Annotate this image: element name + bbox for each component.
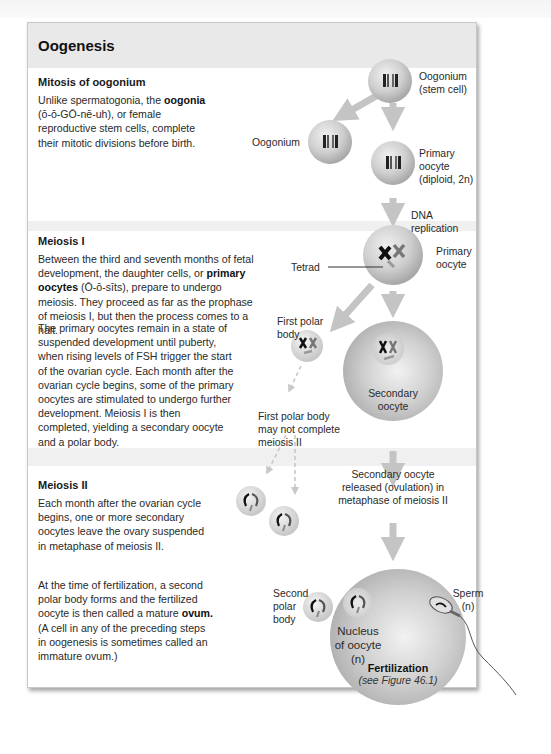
section-heading-meiosis-2: Meiosis II <box>38 479 88 491</box>
label-oogonium: Oogonium <box>252 136 300 149</box>
text-run: At the time of fertilization, a second p… <box>38 579 203 619</box>
label-nucleus-of-oocyte: Nucleus of oocyte (n) <box>323 624 393 666</box>
primary-oocyte-diploid <box>371 141 415 185</box>
label-primary-oocyte: Primary oocyte <box>436 245 472 271</box>
label-sperm: Sperm (n) <box>448 587 488 613</box>
section-heading-mitosis: Mitosis of oogonium <box>38 76 146 88</box>
label-line: oocyte <box>419 160 473 173</box>
label-line: oocyte <box>353 400 433 413</box>
label-second-polar-body: Second polar body <box>273 587 308 626</box>
text-run: Unlike spermatogonia, the <box>38 94 164 106</box>
label-line: Secondary <box>353 387 433 400</box>
label-first-polar-body: First polar body <box>277 315 323 341</box>
meiosis2-description-2: At the time of fertilization, a second p… <box>38 578 216 663</box>
label-line: Nucleus <box>323 624 393 638</box>
mitosis-description: Unlike spermatogonia, the oogonia (ō-ō-G… <box>38 93 218 150</box>
label-ovulation: Secondary oocyte released (ovulation) in… <box>333 468 453 507</box>
page-top-strip <box>0 0 551 18</box>
label-line: oocyte <box>436 258 472 271</box>
label-line: Secondary oocyte <box>333 468 453 481</box>
label-line: Primary <box>436 245 472 258</box>
label-tetrad: Tetrad <box>291 261 320 274</box>
label-secondary-oocyte: Secondary oocyte <box>353 387 433 413</box>
label-oogonium-stem: Oogonium (stem cell) <box>419 70 467 96</box>
label-line: Oogonium <box>419 70 467 83</box>
label-line: meiosis II <box>258 436 340 449</box>
text-run: (ō-ō-GŌ-nē-uh), or female reproductive s… <box>38 108 195 148</box>
label-line: (stem cell) <box>419 83 467 96</box>
label-line: body <box>277 328 323 341</box>
label-line: polar <box>273 600 308 613</box>
term-oogonia: oogonia <box>164 94 205 106</box>
label-line: metaphase of meiosis II <box>333 494 453 507</box>
label-line: of oocyte <box>323 638 393 652</box>
section-heading-meiosis-1: Meiosis I <box>38 235 84 247</box>
label-line: released (ovulation) in <box>333 481 453 494</box>
caption-fertilization: Fertilization <box>338 662 458 674</box>
meiosis1-description-2: The primary oocytes remain in a state of… <box>38 321 234 449</box>
label-line: First polar <box>277 315 323 328</box>
label-line: (n) <box>448 600 488 613</box>
label-dna-replication: DNA replication <box>411 209 476 235</box>
term-ovum: ovum. <box>182 607 213 619</box>
label-line: Primary <box>419 147 473 160</box>
oogonium-daughter-cell <box>308 120 352 164</box>
meiosis2-cell-b <box>269 506 299 536</box>
oogonium-stem-cell <box>368 59 412 103</box>
text-run: (A cell in any of the preceding steps in… <box>38 622 208 662</box>
meiosis2-cell-a <box>236 486 266 516</box>
caption-see-figure: (see Figure 46.1) <box>338 675 458 686</box>
label-line: may not complete <box>258 423 340 436</box>
label-line: Second <box>273 587 308 600</box>
label-line: Sperm <box>448 587 488 600</box>
meiosis2-description-1: Each month after the ovarian cycle begin… <box>38 496 208 553</box>
label-line: (diploid, 2n) <box>419 173 473 186</box>
oogenesis-figure-panel: Oogenesis <box>27 22 477 688</box>
label-first-polar-body-note: First polar body may not complete meiosi… <box>258 410 340 449</box>
label-primary-oocyte-diploid: Primary oocyte (diploid, 2n) <box>419 147 473 186</box>
label-line: First polar body <box>258 410 340 423</box>
label-line: body <box>273 613 308 626</box>
